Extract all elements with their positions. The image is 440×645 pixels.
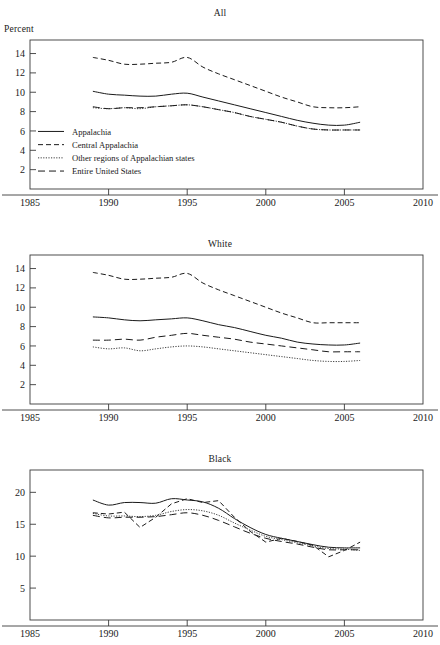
panel-title-white: White xyxy=(0,239,440,249)
x-tick-label: 1990 xyxy=(99,628,119,639)
y-tick-label: 8 xyxy=(20,106,25,117)
series-line-other-regions-of-appalachian-states xyxy=(93,346,360,362)
series-line-entire-united-states xyxy=(93,513,360,550)
x-tick-label: 2005 xyxy=(334,628,354,639)
x-tick-label: 2005 xyxy=(334,412,354,423)
series-line-appalachia xyxy=(93,317,360,345)
x-tick-label: 2010 xyxy=(413,628,433,639)
x-tick-label: 1985 xyxy=(20,197,40,208)
x-tick-label: 2005 xyxy=(334,197,354,208)
series-line-other-regions-of-appalachian-states xyxy=(93,510,360,551)
x-tick-label: 1985 xyxy=(20,412,40,423)
plot-frame xyxy=(30,470,423,620)
y-tick-label: 20 xyxy=(15,487,25,498)
x-tick-label: 2010 xyxy=(413,197,433,208)
panel-title-all: All xyxy=(0,8,440,18)
y-tick-label: 15 xyxy=(15,519,25,530)
x-tick-label: 1995 xyxy=(177,412,197,423)
panel-black: Black 5101520198519901995200020052010 xyxy=(0,430,440,645)
series-line-central-appalachia xyxy=(93,272,360,323)
legend-label-appalachia: Appalachia xyxy=(72,127,111,137)
x-tick-label: 1995 xyxy=(177,628,197,639)
series-line-central-appalachia xyxy=(93,57,360,108)
panel-all: All Percent 2468101214198519901995200020… xyxy=(0,0,440,215)
x-tick-label: 2000 xyxy=(256,412,276,423)
y-tick-label: 12 xyxy=(15,282,25,293)
x-tick-label: 1995 xyxy=(177,197,197,208)
y-tick-label: 2 xyxy=(20,164,25,175)
y-tick-label: 14 xyxy=(15,48,25,59)
y-tick-label: 2 xyxy=(20,379,25,390)
legend-label-entire-united-states: Entire United States xyxy=(72,166,142,176)
y-tick-label: 4 xyxy=(20,360,25,371)
x-tick-label: 1990 xyxy=(99,197,119,208)
y-tick-label: 6 xyxy=(20,126,25,137)
y-tick-label: 5 xyxy=(20,583,25,594)
x-tick-label: 2000 xyxy=(256,197,276,208)
y-tick-label: 10 xyxy=(15,551,25,562)
chart-all: 2468101214198519901995200020052010Appala… xyxy=(0,0,440,215)
series-line-other-regions-of-appalachian-states xyxy=(93,105,360,130)
axis-label-percent: Percent xyxy=(4,24,34,34)
series-line-entire-united-states xyxy=(93,333,360,352)
x-tick-label: 2000 xyxy=(256,628,276,639)
x-tick-label: 1985 xyxy=(20,628,40,639)
panel-white: White 2468101214198519901995200020052010 xyxy=(0,215,440,430)
legend-label-central-appalachia: Central Appalachia xyxy=(72,140,138,150)
legend-label-other-regions-of-appalachian-states: Other regions of Appalachian states xyxy=(72,153,195,163)
x-tick-label: 1990 xyxy=(99,412,119,423)
plot-frame xyxy=(30,255,423,404)
figure-panel-group: All Percent 2468101214198519901995200020… xyxy=(0,0,440,645)
y-tick-label: 4 xyxy=(20,145,25,156)
y-tick-label: 6 xyxy=(20,341,25,352)
y-tick-label: 10 xyxy=(15,87,25,98)
y-tick-label: 8 xyxy=(20,321,25,332)
y-tick-label: 10 xyxy=(15,302,25,313)
y-tick-label: 12 xyxy=(15,67,25,78)
panel-title-black: Black xyxy=(0,454,440,464)
y-tick-label: 14 xyxy=(15,263,25,274)
x-tick-label: 2010 xyxy=(413,412,433,423)
